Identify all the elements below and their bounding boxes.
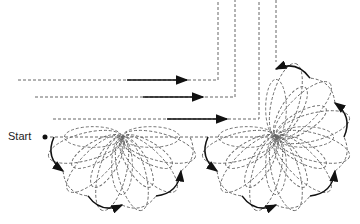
path-diagram <box>0 0 360 224</box>
scallop-arc <box>63 171 88 196</box>
petal-loop <box>64 127 122 148</box>
scallop-arc <box>217 171 242 196</box>
petal-loop <box>266 79 287 137</box>
petal-loop <box>117 128 177 175</box>
guide-line <box>18 0 218 80</box>
scallop-arc <box>156 171 181 196</box>
petal-loop <box>266 137 287 195</box>
start-point <box>43 135 48 140</box>
scallop-arc <box>310 171 335 196</box>
start-label: Start <box>8 130 31 142</box>
petal-loop <box>276 127 334 148</box>
guide-line <box>35 0 235 97</box>
petal-loop <box>112 137 133 195</box>
diagram-canvas: Start <box>0 0 360 224</box>
guide-line <box>53 0 259 119</box>
scallop-arc <box>310 78 335 103</box>
